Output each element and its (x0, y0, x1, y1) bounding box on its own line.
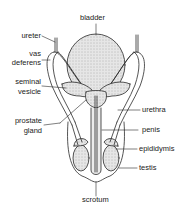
label-prostate-gland-line2: gland (4, 127, 42, 136)
right-ureter-shape (136, 35, 138, 52)
prostate-leader-2 (60, 100, 86, 123)
label-penis: penis (142, 126, 160, 135)
left-ureter-shape (55, 38, 57, 52)
prostate-leader (44, 123, 60, 125)
prostate-shape (85, 91, 106, 109)
label-seminal-vesicle-line2: vesicle (4, 88, 41, 97)
label-testis: testis (139, 164, 157, 173)
label-prostate-gland-line1: prostate (4, 117, 42, 126)
label-seminal-vesicle-line1: seminal (4, 78, 41, 87)
label-epididymis: epididymis (139, 145, 174, 154)
left-testis-shape (73, 145, 89, 171)
label-scrotum: scrotum (82, 196, 109, 205)
label-bladder: bladder (80, 14, 105, 23)
label-urethra: urethra (142, 106, 166, 115)
label-vas-deferens-line2: deferens (4, 59, 41, 68)
ureter-leader (42, 36, 55, 42)
penis-shape (91, 108, 101, 175)
label-ureter: ureter (8, 32, 41, 41)
